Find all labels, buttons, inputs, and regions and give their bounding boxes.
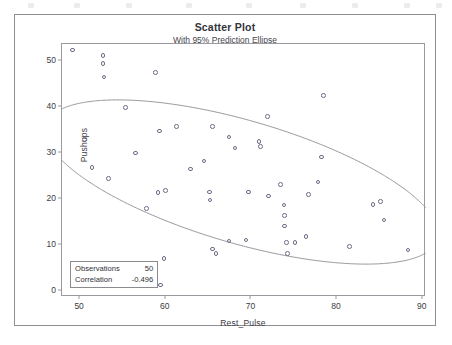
data-point <box>70 48 75 53</box>
data-point <box>162 256 167 261</box>
prediction-ellipse-arc <box>62 100 425 208</box>
y-tick-mark <box>58 152 62 153</box>
data-point <box>106 176 111 181</box>
y-tick-label: 0 <box>51 285 56 295</box>
x-axis-label: Rest_Pulse <box>62 318 424 328</box>
data-point <box>157 129 162 134</box>
data-point <box>371 202 376 207</box>
x-tick-label: 90 <box>417 301 426 311</box>
data-point <box>174 124 179 129</box>
statistics-row: Correlation-0.496 <box>75 275 153 286</box>
data-point <box>278 182 283 187</box>
data-point <box>284 240 289 245</box>
y-tick-mark <box>58 198 62 199</box>
data-point <box>158 283 163 288</box>
data-point <box>347 244 352 249</box>
data-point <box>90 165 95 170</box>
x-tick-label: 60 <box>160 301 169 311</box>
statistics-inset-box: Observations50Correlation-0.496 <box>70 261 158 288</box>
y-tick-label: 30 <box>47 147 56 157</box>
data-point <box>258 144 263 149</box>
y-tick-label: 50 <box>47 55 56 65</box>
data-point <box>153 70 158 75</box>
ellipse-overlay <box>62 44 426 297</box>
data-point <box>306 192 311 197</box>
data-point <box>257 139 262 144</box>
x-tick-mark <box>250 295 251 299</box>
x-tick-label: 80 <box>331 301 340 311</box>
x-tick-mark <box>79 295 80 299</box>
data-point <box>210 124 215 129</box>
data-point <box>265 114 270 119</box>
y-tick-mark <box>58 60 62 61</box>
plot-area: Pushups Rest_Pulse Observations50Correla… <box>61 43 425 296</box>
statistics-label: Correlation <box>75 275 132 286</box>
x-tick-mark <box>421 295 422 299</box>
chart-outer-frame: Scatter Plot With 95% Prediction Ellipse… <box>14 14 436 326</box>
scan-artifact-band <box>0 0 452 14</box>
data-point <box>321 93 326 98</box>
data-point <box>82 137 87 142</box>
x-tick-mark <box>336 295 337 299</box>
y-tick-label: 10 <box>47 239 56 249</box>
y-tick-mark <box>58 106 62 107</box>
data-point <box>285 251 290 256</box>
data-point <box>163 188 168 193</box>
statistics-table: Observations50Correlation-0.496 <box>75 264 153 285</box>
chart-title: Scatter Plot <box>15 21 435 34</box>
prediction-ellipse-arc <box>62 161 425 265</box>
y-tick-label: 40 <box>47 101 56 111</box>
data-point <box>123 105 128 110</box>
data-point <box>207 190 212 195</box>
x-tick-mark <box>164 295 165 299</box>
data-point <box>378 199 383 204</box>
y-tick-label: 20 <box>47 193 56 203</box>
data-point <box>293 240 298 245</box>
y-tick-mark <box>58 290 62 291</box>
statistics-label: Observations <box>75 264 132 275</box>
statistics-value: -0.496 <box>132 275 154 286</box>
y-axis-label: Pushups <box>79 85 89 205</box>
data-point <box>282 213 287 218</box>
data-point <box>156 190 161 195</box>
statistics-value: 50 <box>132 264 154 275</box>
data-point <box>266 194 271 199</box>
x-tick-label: 70 <box>246 301 255 311</box>
statistics-row: Observations50 <box>75 264 153 275</box>
x-tick-label: 50 <box>74 301 83 311</box>
y-tick-mark <box>58 244 62 245</box>
data-point <box>144 206 149 211</box>
